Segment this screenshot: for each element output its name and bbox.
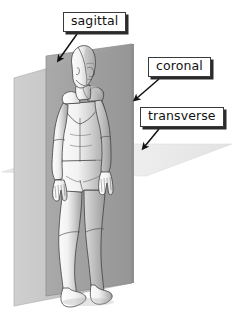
label-coronal: coronal: [148, 57, 211, 77]
anatomical-planes-figure: sagittal coronal transverse: [0, 0, 237, 331]
label-transverse-text: transverse: [148, 110, 216, 123]
label-transverse: transverse: [140, 107, 224, 127]
label-coronal-text: coronal: [156, 60, 203, 73]
floor-shadow: [62, 298, 114, 306]
label-sagittal: sagittal: [63, 12, 126, 32]
label-sagittal-text: sagittal: [71, 15, 118, 28]
hand-right: [99, 172, 113, 195]
planes-scene: [0, 0, 237, 331]
hand-left: [53, 180, 67, 201]
